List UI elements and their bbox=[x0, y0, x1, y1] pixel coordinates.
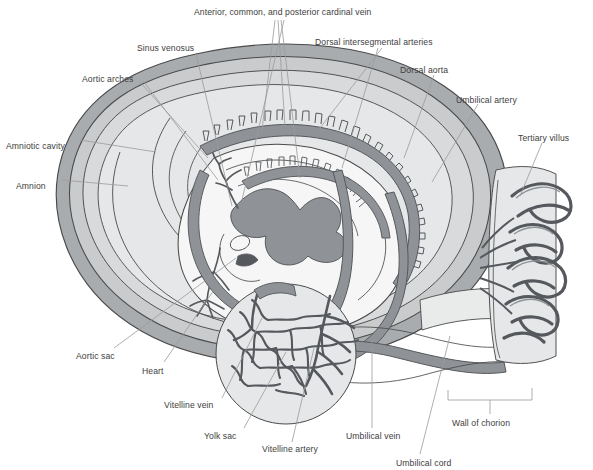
leader-wall-of-chorion-bracket bbox=[448, 388, 532, 414]
label-anterior-common-posterior-cardinal-vein: Anterior, common, and posterior cardinal… bbox=[194, 8, 371, 17]
label-vitelline-artery: Vitelline artery bbox=[262, 445, 318, 454]
label-yolk-sac: Yolk sac bbox=[204, 432, 237, 441]
label-vitelline-vein: Vitelline vein bbox=[164, 401, 214, 410]
label-umbilical-artery: Umbilical artery bbox=[456, 96, 517, 105]
diagram-canvas: Anterior, common, and posterior cardinal… bbox=[0, 0, 593, 470]
label-wall-of-chorion: Wall of chorion bbox=[452, 419, 510, 428]
label-aortic-arches: Aortic arches bbox=[82, 75, 133, 84]
label-aortic-sac: Aortic sac bbox=[76, 352, 115, 361]
yolk-sac bbox=[216, 284, 356, 424]
label-umbilical-vein: Umbilical vein bbox=[346, 432, 400, 441]
label-umbilical-cord: Umbilical cord bbox=[396, 459, 451, 468]
label-sinus-venosus: Sinus venosus bbox=[137, 44, 194, 53]
embryo-circulation-figure bbox=[0, 0, 593, 470]
label-dorsal-intersegmental-arteries: Dorsal intersegmental arteries bbox=[315, 38, 433, 47]
label-dorsal-aorta: Dorsal aorta bbox=[400, 66, 448, 75]
label-heart: Heart bbox=[142, 367, 164, 376]
label-amniotic-cavity: Amniotic cavity bbox=[6, 142, 65, 151]
chorion-villi-group bbox=[480, 167, 571, 364]
label-tertiary-villus: Tertiary villus bbox=[518, 134, 569, 143]
label-amnion: Amnion bbox=[16, 182, 46, 191]
